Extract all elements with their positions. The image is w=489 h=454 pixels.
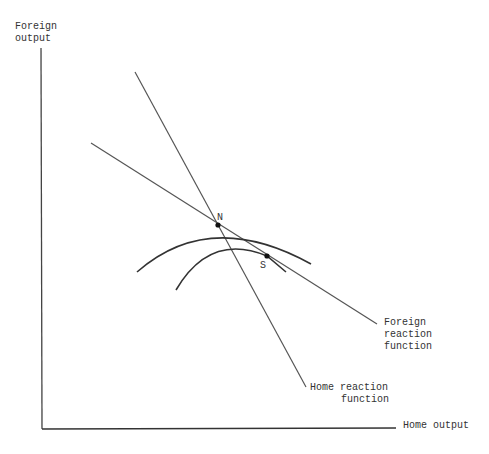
nash-point: [215, 222, 220, 227]
inner-isoprofit-curve: [176, 249, 286, 290]
nash-label: N: [217, 212, 223, 223]
stackelberg-label: S: [260, 260, 266, 271]
y-axis: [41, 48, 42, 429]
home-reaction-line: [135, 72, 306, 387]
x-axis-label: Home output: [403, 420, 469, 431]
reaction-function-diagram: N S Foreign output Home output Foreign r…: [0, 0, 489, 454]
home-reaction-label-line2: function: [341, 394, 389, 405]
foreign-reaction-label-line2: reaction: [384, 329, 432, 340]
y-axis-label-line1: Foreign: [15, 21, 57, 32]
home-reaction-label-line1: Home reaction: [310, 382, 388, 393]
outer-isoprofit-curve: [137, 238, 311, 272]
x-axis: [42, 428, 396, 429]
foreign-reaction-label-line1: Foreign: [384, 317, 426, 328]
y-axis-label-line2: output: [15, 33, 51, 44]
stackelberg-point: [264, 253, 269, 258]
foreign-reaction-label-line3: function: [384, 341, 432, 352]
foreign-reaction-line: [91, 143, 377, 324]
